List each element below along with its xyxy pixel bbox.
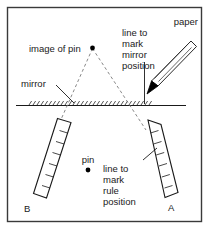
ruler-b-label: B (24, 203, 30, 214)
mirror-label: mirror (21, 78, 46, 89)
image-of-pin-label: image of pin (29, 43, 81, 54)
mirror-note-line-1: line to (122, 27, 147, 38)
rule-note-line-4: position (103, 196, 136, 207)
pin-dot (86, 168, 91, 173)
paper-label: paper (174, 16, 198, 27)
mirror-note-line-3: mirror (122, 49, 147, 60)
mirror-note-line-2: mark (122, 38, 143, 49)
ruler-a-label: A (168, 202, 175, 213)
mirror-note-line-4: position (122, 60, 155, 71)
rule-note-line-2: mark (103, 174, 124, 185)
diagram-figure: paper image of pin mirror pin B A line t… (0, 0, 209, 229)
rule-note-line-3: rule (103, 185, 119, 196)
rule-note-line-1: line to (103, 163, 128, 174)
image-of-pin-dot (90, 46, 95, 51)
pin-label: pin (82, 154, 95, 165)
